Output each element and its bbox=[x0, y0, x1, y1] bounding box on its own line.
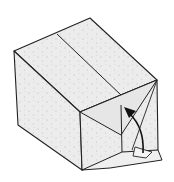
box-wrapping-diagram bbox=[0, 0, 174, 182]
